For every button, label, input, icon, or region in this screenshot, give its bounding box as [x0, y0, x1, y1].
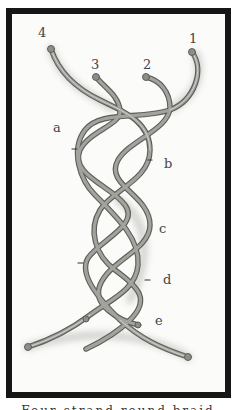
step-label-e: e [155, 314, 163, 327]
strand-label-3: 3 [91, 58, 99, 71]
step-label-d: d [163, 273, 171, 286]
strand-label-2: 2 [143, 58, 151, 71]
braid-illustration [0, 0, 236, 410]
strand-label-1: 1 [189, 32, 197, 45]
step-label-c: c [159, 222, 166, 235]
figure-caption: Four-strand round braid [0, 401, 236, 410]
step-label-a: a [53, 121, 61, 134]
strand-label-4: 4 [38, 26, 46, 39]
step-label-b: b [164, 157, 172, 170]
